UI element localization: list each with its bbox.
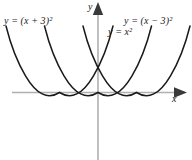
y-axis-label: y (88, 2, 92, 12)
label-left-parabola: y = (x + 3)² (4, 16, 52, 26)
parabola-translation-figure: y = (x + 3)² y = (x − 3)² y = x² y x (0, 0, 192, 160)
y-axis-arrowhead (93, 2, 103, 15)
curve-right-parabola (83, 26, 190, 96)
label-right-parabola: y = (x − 3)² (124, 16, 172, 26)
label-middle-parabola: y = x² (108, 27, 132, 37)
x-axis-label: x (172, 94, 176, 104)
curve-left-parabola (6, 26, 113, 96)
